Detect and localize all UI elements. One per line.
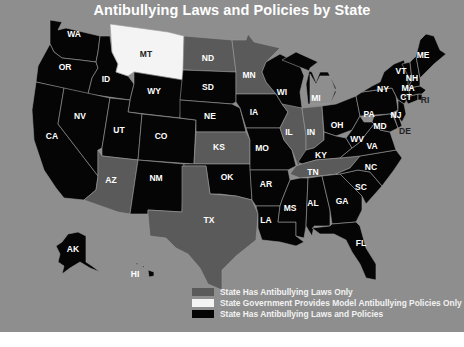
label-MN: MN [242, 70, 255, 80]
label-MD: MD [373, 121, 386, 131]
label-WY: WY [147, 86, 161, 96]
state-NM[interactable] [130, 160, 184, 214]
legend-swatch-model-policies-only [192, 299, 214, 307]
legend-label: State Government Provides Model Antibull… [220, 298, 462, 308]
label-CT: CT [400, 92, 412, 102]
legend-item-model-policies-only: State Government Provides Model Antibull… [192, 297, 462, 308]
page-title: Antibullying Laws and Policies by State [0, 2, 464, 18]
label-SC: SC [355, 182, 367, 192]
label-KY: KY [315, 150, 327, 160]
label-KS: KS [213, 142, 225, 152]
label-RI: RI [421, 95, 430, 105]
legend-swatch-laws-only [192, 288, 214, 296]
label-NJ: NJ [391, 110, 402, 120]
label-IL: IL [285, 127, 293, 137]
label-AR: AR [260, 179, 272, 189]
label-VA: VA [366, 141, 377, 151]
label-NM: NM [149, 173, 162, 183]
label-IN: IN [307, 127, 316, 137]
label-FL: FL [356, 238, 366, 248]
label-AZ: AZ [105, 175, 116, 185]
label-LA: LA [260, 215, 271, 225]
label-NY: NY [377, 84, 389, 94]
label-AK: AK [67, 244, 80, 254]
label-PA: PA [363, 109, 374, 119]
label-NH: NH [406, 73, 418, 83]
legend-label: State Has Antibullying Laws and Policies [220, 309, 383, 319]
label-MT: MT [140, 49, 153, 59]
label-MI: MI [311, 93, 320, 103]
label-IA: IA [250, 107, 259, 117]
label-WI: WI [277, 87, 287, 97]
label-TX: TX [204, 215, 215, 225]
label-TN: TN [307, 167, 318, 177]
label-MO: MO [255, 143, 269, 153]
legend: State Has Antibullying Laws Only State G… [192, 286, 462, 319]
label-ID: ID [102, 74, 111, 84]
us-map: WA OR CA ID NV MT WY UT AZ CO NM ND SD N… [0, 0, 464, 332]
label-NE: NE [204, 111, 216, 121]
label-DE: DE [399, 126, 411, 136]
legend-item-laws-only: State Has Antibullying Laws Only [192, 286, 462, 297]
legend-label: State Has Antibullying Laws Only [220, 287, 353, 297]
label-NC: NC [365, 162, 377, 172]
label-WV: WV [350, 134, 364, 144]
label-MA: MA [401, 83, 414, 93]
legend-item-laws-and-policies: State Has Antibullying Laws and Policies [192, 308, 462, 319]
label-SD: SD [202, 82, 214, 92]
label-HI: HI [131, 269, 140, 279]
label-NV: NV [74, 111, 86, 121]
label-OR: OR [59, 62, 72, 72]
label-AL: AL [307, 198, 318, 208]
label-WA: WA [67, 29, 81, 39]
label-OK: OK [221, 172, 235, 182]
label-ND: ND [202, 53, 214, 63]
legend-swatch-laws-and-policies [192, 310, 214, 318]
label-CA: CA [46, 131, 58, 141]
label-OH: OH [331, 120, 344, 130]
label-UT: UT [113, 125, 125, 135]
label-ME: ME [417, 50, 430, 60]
label-MS: MS [284, 203, 297, 213]
state-FL[interactable] [312, 222, 376, 280]
label-CO: CO [155, 131, 168, 141]
label-GA: GA [336, 196, 349, 206]
